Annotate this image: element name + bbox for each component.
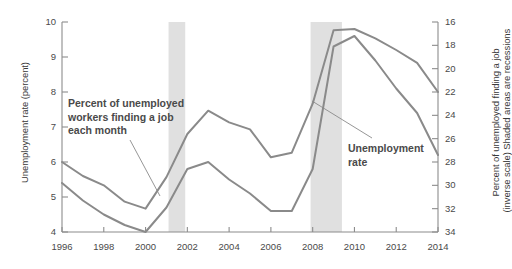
y-tick-label-right: 30 [445,179,467,190]
y-tick-label-right: 22 [445,86,467,97]
x-tick-label: 2000 [129,241,163,252]
x-tick-label: 2010 [337,241,371,252]
x-tick-label: 2004 [212,241,246,252]
x-tick-label: 1996 [45,241,79,252]
y-tick-label-left: 4 [34,226,56,237]
y-tick-label-right: 26 [445,133,467,144]
y-tick-label-left: 6 [34,156,56,167]
y-tick-label-left: 10 [34,16,56,27]
y-tick-label-right: 18 [445,39,467,50]
y-tick-label-right: 16 [445,16,467,27]
job-finding-annotation: Percent of unemployed workers finding a … [68,97,184,138]
y-tick-label-right: 32 [445,203,467,214]
annotation-line: each month [68,124,184,138]
y-tick-label-right: 34 [445,226,467,237]
annotation-leader-line [130,140,160,196]
y-axis-title-left: Unemployment rate (percent) [19,38,30,208]
y-tick-label-right: 28 [445,156,467,167]
y-tick-label-left: 9 [34,51,56,62]
y-tick-label-left: 7 [34,121,56,132]
x-tick-label: 1998 [87,241,121,252]
x-tick-label: 2008 [296,241,330,252]
unemployment-rate-annotation: Unemployment rate [348,142,424,169]
x-tick-label: 2012 [379,241,413,252]
x-tick-label: 2006 [254,241,288,252]
y-tick-label-left: 8 [34,86,56,97]
annotation-line: Percent of unemployed [68,97,184,111]
y-axis-title-right-line1: Percent of unemployed finding a job [490,33,501,213]
annotation-line: Unemployment [348,142,424,156]
annotation-line: rate [348,156,424,170]
y-tick-label-right: 24 [445,109,467,120]
y-tick-label-right: 20 [445,63,467,74]
y-tick-label-left: 5 [34,191,56,202]
x-tick-label: 2002 [170,241,204,252]
y-axis-title-right-line2: (inverse scale) Shaded areas are recessi… [501,33,512,213]
annotation-line: workers finding a job [68,111,184,125]
x-tick-label: 2014 [421,241,455,252]
